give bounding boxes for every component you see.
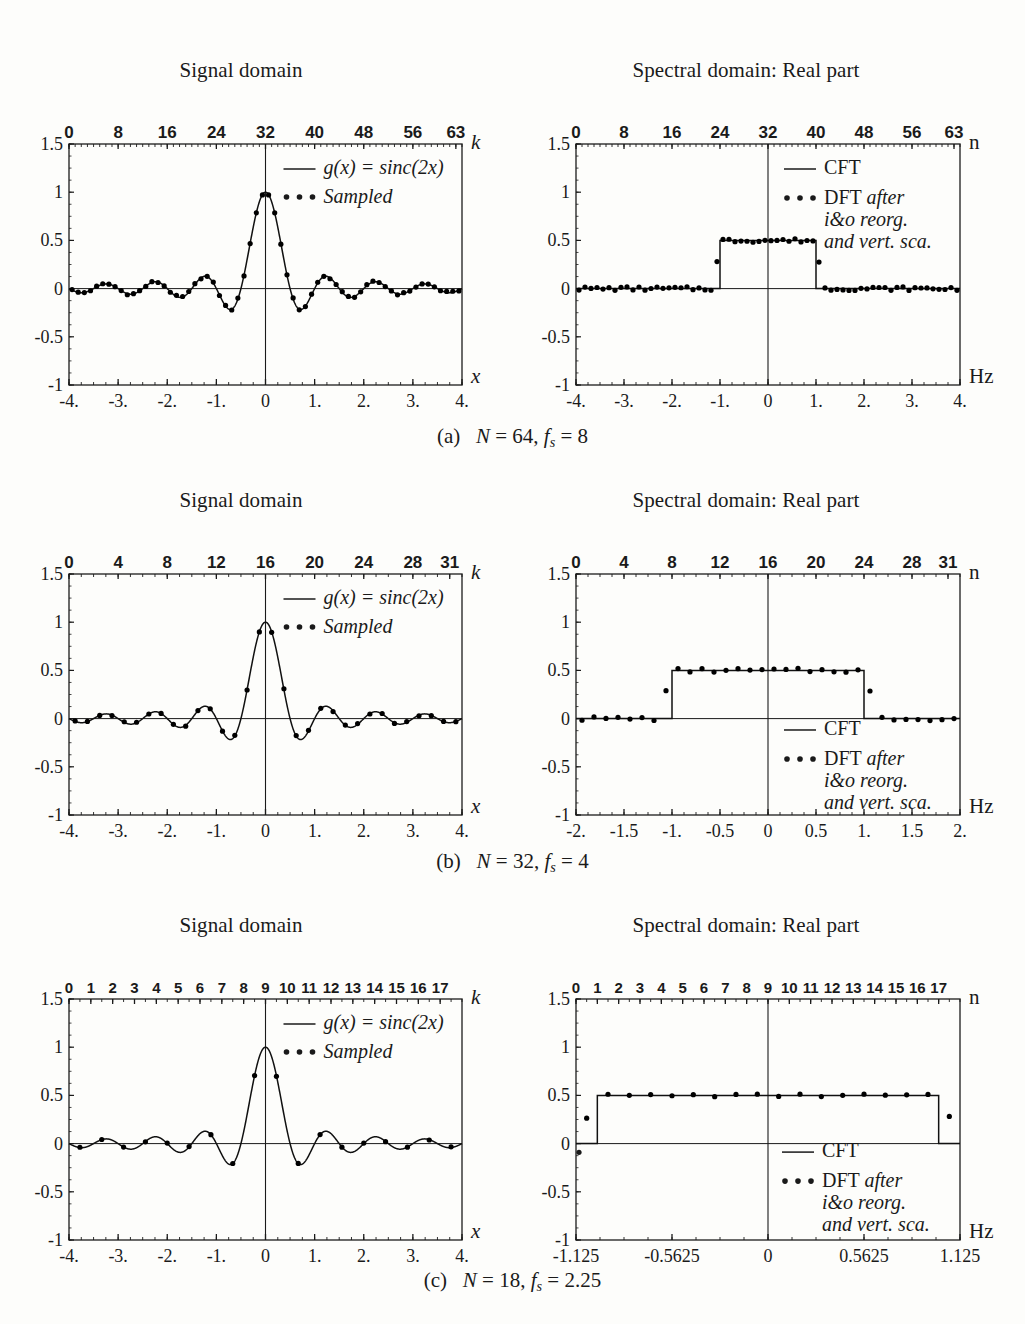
x-tick-label: -1.: [207, 821, 227, 841]
sample-dot: [85, 719, 90, 724]
sample-dot: [894, 285, 899, 290]
sample-dot: [612, 288, 617, 293]
caption-c: (c) N = 18, fs = 2.25: [0, 1268, 1025, 1295]
caption-tag: (c): [424, 1268, 447, 1292]
x-tick-label: 4.: [455, 821, 469, 841]
sample-dot: [395, 292, 400, 297]
y-tick-label: 1.5: [41, 989, 64, 1009]
x-tick-label: -2.: [158, 391, 178, 411]
top-tick-label: 4: [619, 553, 629, 572]
legend-dot-swatch: [795, 1178, 801, 1184]
y-tick-label: 0.5: [548, 230, 571, 250]
sample-dot: [822, 285, 827, 290]
x-tick-label: 1.: [809, 391, 823, 411]
sample-dot: [339, 1145, 344, 1150]
top-tick-label: 15: [888, 979, 905, 996]
sample-dot: [330, 709, 335, 714]
legend-dot-swatch: [810, 195, 816, 201]
legend-dot-swatch: [784, 195, 790, 201]
top-tick-label: 14: [866, 979, 883, 996]
sample-dot: [605, 1092, 610, 1097]
figure-row-b: Signal domain -1-0.500.511.5-4.-3.-2.-1.…: [0, 430, 1025, 860]
top-tick-label: 12: [824, 979, 841, 996]
sample-dot: [795, 666, 800, 671]
sample-dot: [840, 1093, 845, 1098]
top-tick-label: 1: [87, 979, 95, 996]
sample-dot: [594, 285, 599, 290]
sample-dot: [747, 668, 752, 673]
sample-dot: [711, 670, 716, 675]
y-tick-label: -0.5: [542, 1182, 571, 1202]
sample-dot: [714, 259, 719, 264]
top-tick-label: 63: [446, 123, 465, 142]
sample-dot: [309, 292, 314, 297]
x-tick-label: 1.125: [940, 1246, 981, 1266]
top-tick-label: 7: [721, 979, 729, 996]
x-tick-label: -4.: [59, 1246, 79, 1266]
top-tick-label: 63: [945, 123, 964, 142]
sample-dot: [942, 287, 947, 292]
sample-dot: [776, 1094, 781, 1099]
sample-dot: [229, 307, 234, 312]
top-tick-label: 1: [593, 979, 601, 996]
top-tick-label: 8: [163, 553, 172, 572]
sample-dot: [654, 284, 659, 289]
sample-dot: [143, 284, 148, 289]
top-tick-label: 28: [903, 553, 922, 572]
sample-dot: [648, 1092, 653, 1097]
sample-dot: [303, 304, 308, 309]
y-tick-label: 1.5: [41, 564, 64, 584]
plot-b-signal: -1-0.500.511.5-4.-3.-2.-1.01.2.3.4.04812…: [0, 430, 512, 860]
sample-dot: [134, 720, 139, 725]
sample-dot: [879, 715, 884, 720]
sample-dot: [146, 711, 151, 716]
legend-dot-swatch: [784, 756, 790, 762]
y-tick-label: 1.5: [548, 134, 571, 154]
sample-dot: [678, 285, 683, 290]
sample-dot: [121, 1144, 126, 1149]
y-tick-label: 0: [561, 1134, 570, 1154]
caption-b: (b) N = 32, fs = 4: [0, 849, 1025, 876]
y-tick-label: 1: [54, 612, 63, 632]
sample-dot: [272, 210, 277, 215]
x-tick-label: -2.: [158, 821, 178, 841]
sample-dot: [186, 1144, 191, 1149]
top-tick-label: 16: [909, 979, 926, 996]
sample-dot: [906, 288, 911, 293]
legend-dot-swatch: [310, 1049, 316, 1055]
sample-dot: [939, 717, 944, 722]
caption-fs-value: 2.25: [564, 1268, 601, 1292]
top-tick-label: 13: [344, 979, 361, 996]
x-tick-label: -4.: [59, 391, 79, 411]
sample-dot: [340, 289, 345, 294]
sample-dot: [660, 286, 665, 291]
sample-dot: [948, 285, 953, 290]
x-tick-label: 4.: [455, 1246, 469, 1266]
y-tick-label: 0: [54, 1134, 63, 1154]
plot-a-signal: -1-0.500.511.5-4.-3.-2.-1.01.2.3.4.08162…: [0, 0, 512, 430]
sample-dot: [291, 295, 296, 300]
top-tick-label: 8: [239, 979, 247, 996]
sample-dot: [810, 238, 815, 243]
sample-dot: [876, 285, 881, 290]
top-axis-label: n: [969, 985, 980, 1009]
sample-dot: [137, 288, 142, 293]
legend-dots-label: Sampled: [324, 185, 394, 208]
sample-dot: [947, 1114, 952, 1119]
legend-dot-swatch: [782, 1178, 788, 1184]
sample-dot: [864, 286, 869, 291]
sample-dot: [675, 666, 680, 671]
x-tick-label: 0.5625: [839, 1246, 889, 1266]
sample-dot: [792, 236, 797, 241]
y-tick-label: -0.5: [35, 327, 64, 347]
sample-dot: [174, 293, 179, 298]
x-tick-label: 0: [261, 391, 270, 411]
legend-dot-swatch: [284, 1049, 290, 1055]
sample-dot: [900, 284, 905, 289]
legend-line-label: g(x) = sinc(2x): [324, 586, 444, 609]
sample-dot: [192, 281, 197, 286]
sample-dot: [852, 288, 857, 293]
legend-dot-swatch: [284, 624, 290, 630]
top-tick-label: 3: [130, 979, 138, 996]
sample-dot: [171, 722, 176, 727]
